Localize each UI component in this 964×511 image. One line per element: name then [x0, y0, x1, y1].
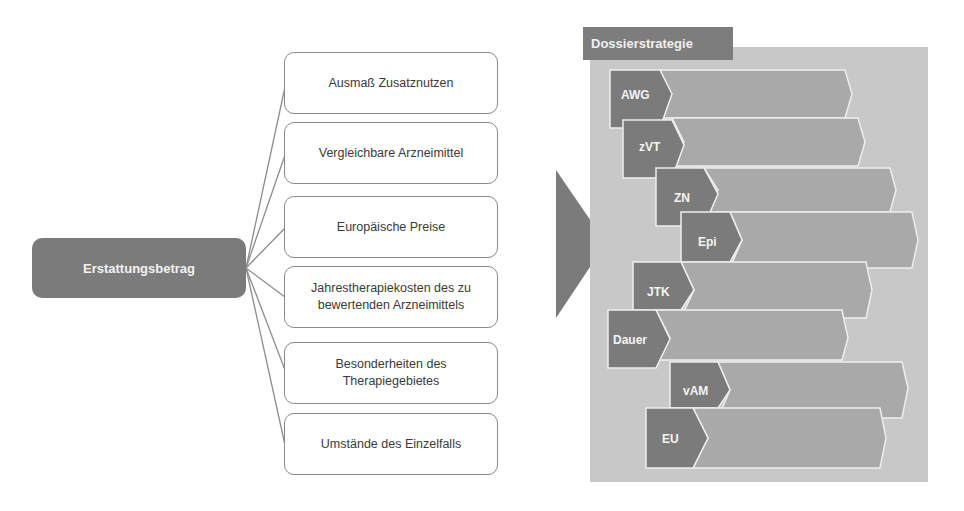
- row-body-arrow: [672, 118, 865, 166]
- row-body-arrow: [656, 310, 848, 360]
- row-body-arrow: [704, 168, 896, 212]
- row-body-arrow: [693, 408, 886, 468]
- row-label-dauer: Dauer: [613, 333, 647, 347]
- row-label-vam: vAM: [683, 384, 708, 398]
- row-label-eu: EU: [662, 432, 679, 446]
- row-label-zn: ZN: [674, 191, 690, 205]
- row-body-arrow: [730, 212, 918, 268]
- row-body-arrow: [660, 70, 852, 118]
- row-label-jtk: JTK: [647, 285, 670, 299]
- row-label-awg: AWG: [621, 88, 650, 102]
- row-label-epi: Epi: [698, 235, 717, 249]
- dossier-rows: [0, 0, 964, 511]
- row-label-zvt: zVT: [639, 140, 660, 154]
